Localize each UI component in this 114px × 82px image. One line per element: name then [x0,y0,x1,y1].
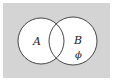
set-b-label: B [73,34,82,47]
set-a-label: A [32,35,41,48]
empty-set-symbol: ϕ [75,49,82,60]
venn-diagram: A B ϕ [0,0,114,82]
